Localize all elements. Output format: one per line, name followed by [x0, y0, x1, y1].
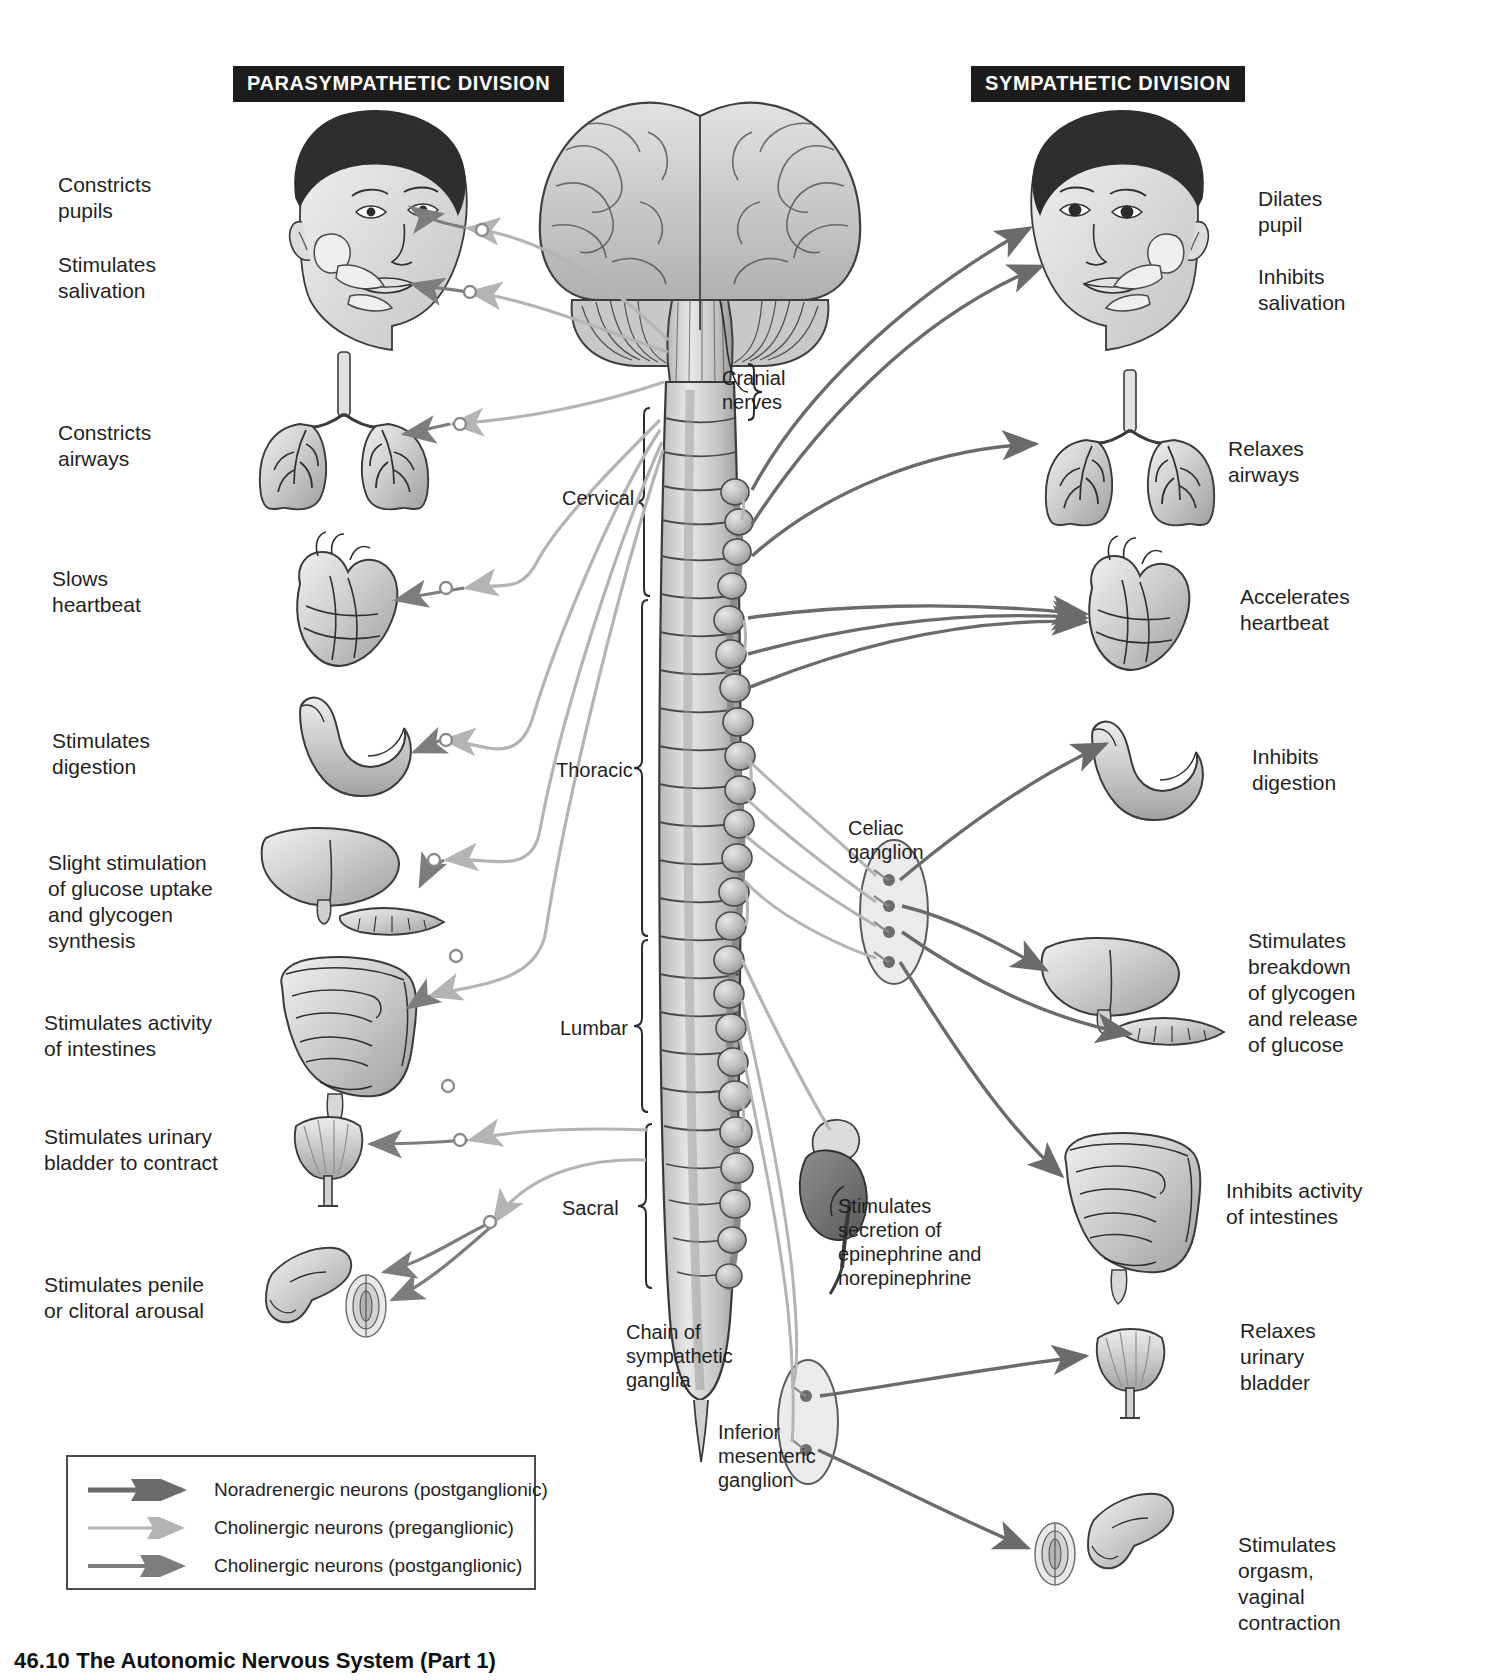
label-symp-digestion: Inhibits digestion: [1252, 744, 1336, 796]
post-heart: [396, 588, 464, 600]
heart-sympathetic: [1089, 536, 1189, 670]
head-parasympathetic: [290, 111, 467, 350]
pre-to-celiac-4: [744, 880, 876, 958]
liver-pancreas-parasympathetic: [262, 828, 444, 935]
label-symp-liver: Stimulates breakdown of glycogen and rel…: [1248, 928, 1358, 1058]
brain-illustration: [540, 103, 860, 382]
label-para-liver: Slight stimulation of glucose uptake and…: [48, 850, 213, 954]
parasympathetic-nerve-paths: [430, 228, 668, 1222]
label-para-heart: Slows heartbeat: [52, 566, 141, 618]
sym-to-intestines: [900, 962, 1062, 1176]
sym-to-heart-3: [748, 621, 1086, 688]
figure-canvas: PARASYMPATHETIC DIVISION SYMPATHETIC DIV…: [0, 0, 1498, 1680]
label-symp-genitals: Stimulates orgasm, vaginal contraction: [1238, 1532, 1341, 1636]
nerve-to-bladder-pre: [470, 1129, 648, 1140]
legend-arrow-cholinergic-post-icon: [82, 1555, 202, 1577]
legend-item-cholinergic-postganglionic: Cholinergic neurons (postganglionic): [68, 1547, 534, 1585]
intestines-sympathetic: [1065, 1133, 1200, 1304]
label-symp-bladder: Relaxes urinary bladder: [1240, 1318, 1316, 1396]
label-symp-heart: Accelerates heartbeat: [1240, 584, 1350, 636]
lungs-sympathetic: [1046, 370, 1214, 525]
legend-label-cholinergic-pre: Cholinergic neurons (preganglionic): [214, 1517, 514, 1539]
figure-caption: 46.10 The Autonomic Nervous System (Part…: [14, 1648, 496, 1674]
nerve-to-stomach: [444, 430, 660, 749]
sym-to-bladder: [820, 1356, 1086, 1396]
sympathetic-postganglionic: [748, 228, 1130, 1548]
label-para-pupil: Constricts pupils: [58, 172, 151, 224]
post-lungs: [404, 424, 450, 434]
heart-parasympathetic: [297, 532, 397, 666]
callout-sympathetic-chain: Chain of sympathetic ganglia: [626, 1320, 733, 1392]
legend-label-cholinergic-post: Cholinergic neurons (postganglionic): [214, 1555, 522, 1577]
callout-celiac-ganglion: Celiac ganglion: [848, 816, 924, 864]
banner-sympathetic-division: SYMPATHETIC DIVISION: [971, 66, 1245, 102]
label-symp-salivation: Inhibits salivation: [1258, 264, 1346, 316]
lungs-parasympathetic: [260, 352, 428, 509]
stomach-parasympathetic: [300, 698, 411, 796]
label-para-airways: Constricts airways: [58, 420, 151, 472]
post-genitals-2: [392, 1226, 492, 1300]
legend-arrow-noradrenergic-icon: [82, 1479, 202, 1501]
spinal-label-sacral: Sacral: [562, 1196, 619, 1220]
label-para-digestion: Stimulates digestion: [52, 728, 150, 780]
legend-item-noradrenergic-postganglionic: Noradrenergic neurons (postganglionic): [68, 1471, 534, 1509]
callout-cranial-nerves: Cranial nerves: [722, 366, 785, 414]
parasympathetic-postganglionic: [370, 214, 492, 1300]
spinal-label-cervical: Cervical: [562, 486, 634, 510]
banner-parasympathetic-division: PARASYMPATHETIC DIVISION: [233, 66, 564, 102]
bladder-parasympathetic: [295, 1117, 362, 1206]
genitals-parasympathetic: [266, 1248, 386, 1337]
intestines-parasympathetic: [281, 957, 416, 1128]
nerve-to-lungs: [452, 382, 664, 424]
label-para-salivation: Stimulates salivation: [58, 252, 156, 304]
bladder-sympathetic: [1097, 1329, 1164, 1418]
post-genitals: [384, 1222, 492, 1272]
sympathetic-preganglionic: [740, 492, 876, 1442]
label-para-genitals: Stimulates penile or clitoral arousal: [44, 1272, 204, 1324]
legend-arrow-cholinergic-pre-icon: [82, 1517, 202, 1539]
figure-caption-number: 46.10: [14, 1648, 70, 1673]
sym-to-airways: [752, 444, 1036, 556]
label-symp-intestines: Inhibits activity of intestines: [1226, 1178, 1363, 1230]
liver-pancreas-sympathetic: [1042, 938, 1224, 1045]
stomach-sympathetic: [1092, 722, 1203, 820]
label-para-intestines: Stimulates activity of intestines: [44, 1010, 212, 1062]
spinal-label-lumbar: Lumbar: [560, 1016, 628, 1040]
sym-to-stomach: [900, 744, 1106, 880]
label-para-bladder: Stimulates urinary bladder to contract: [44, 1124, 218, 1176]
label-symp-airways: Relaxes airways: [1228, 436, 1304, 488]
callout-adrenal-secretion: Stimulates secretion of epinephrine and …: [838, 1194, 981, 1290]
legend-box: Noradrenergic neurons (postganglionic) C…: [66, 1455, 536, 1590]
post-stomach: [414, 740, 442, 752]
genitals-sympathetic: [1035, 1494, 1173, 1585]
head-sympathetic: [1031, 111, 1208, 350]
legend-label-noradrenergic: Noradrenergic neurons (postganglionic): [214, 1479, 548, 1501]
nerve-to-intestines: [430, 450, 663, 996]
pre-to-adrenal: [742, 960, 830, 1130]
figure-caption-title: The Autonomic Nervous System (Part 1): [76, 1648, 496, 1673]
callout-inferior-mesenteric: Inferior mesenteric ganglion: [718, 1420, 816, 1492]
label-symp-pupil: Dilates pupil: [1258, 186, 1322, 238]
spinal-label-thoracic: Thoracic: [556, 758, 633, 782]
parasympathetic-ganglion-dots: [428, 224, 496, 1228]
legend-item-cholinergic-preganglionic: Cholinergic neurons (preganglionic): [68, 1509, 534, 1547]
sym-to-genitals: [818, 1450, 1028, 1548]
